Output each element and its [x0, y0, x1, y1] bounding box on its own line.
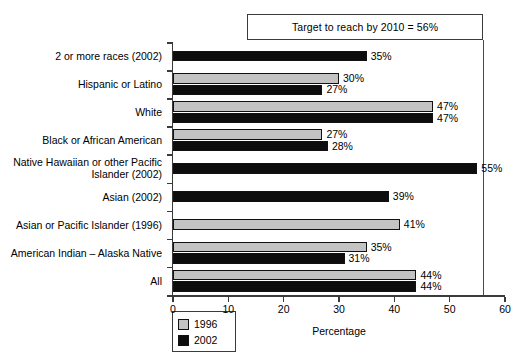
x-axis-tick	[283, 297, 285, 302]
chart-legend: 1996 2002	[172, 311, 236, 352]
category-label-text: 2 or more races (2002)	[55, 50, 168, 62]
y-axis-tick	[167, 183, 172, 185]
category-label-text: Hispanic or Latino	[78, 78, 168, 90]
y-axis-tick	[167, 70, 172, 72]
bar-2002	[173, 253, 345, 264]
y-axis-tick	[167, 239, 172, 241]
category-label-text: All	[150, 275, 168, 287]
x-axis-tick-label: 30	[333, 303, 345, 315]
legend-label-2002: 2002	[194, 334, 217, 346]
x-axis-tick	[449, 297, 451, 302]
bar-value-label: 47%	[437, 100, 458, 112]
category-label-text: American Indian – Alaska Native	[11, 247, 168, 259]
category-label: Asian or Pacific Islander (1996)	[0, 211, 168, 239]
x-axis-tick	[394, 297, 396, 302]
category-label: Asian (2002)	[0, 183, 168, 211]
bar-1996	[173, 242, 367, 253]
y-axis-tick	[167, 154, 172, 156]
x-axis-tick-label: 50	[444, 303, 456, 315]
bar-1996	[173, 101, 433, 112]
bar-value-label: 55%	[481, 162, 502, 174]
legend-swatch-1996	[178, 319, 189, 330]
x-axis-tick	[172, 297, 174, 302]
y-axis-tick	[167, 42, 172, 44]
bar-value-label: 39%	[393, 190, 414, 202]
category-label: All	[0, 267, 168, 295]
legend-label-1996: 1996	[194, 318, 217, 330]
category-label-text: Asian or Pacific Islander (1996)	[16, 219, 168, 231]
category-label: Native Hawaiian or other Pacific Islande…	[0, 154, 168, 182]
x-axis-tick	[338, 297, 340, 302]
bar-2002	[173, 85, 322, 96]
x-axis-tick-label: 40	[388, 303, 400, 315]
x-axis-title: Percentage	[312, 325, 366, 337]
target-callout-text: Target to reach by 2010 = 56%	[292, 21, 438, 33]
y-axis-tick	[167, 267, 172, 269]
y-axis-tick	[167, 211, 172, 213]
bar-2002	[173, 163, 477, 174]
category-label: 2 or more races (2002)	[0, 42, 168, 70]
bar-value-label: 27%	[326, 128, 347, 140]
bar-value-label: 44%	[420, 280, 441, 292]
category-label: Hispanic or Latino	[0, 70, 168, 98]
y-axis-tick	[167, 295, 172, 297]
category-label-text: Black or African American	[42, 134, 168, 146]
bar-2002	[173, 51, 367, 62]
bar-1996	[173, 270, 416, 281]
bar-value-label: 35%	[371, 241, 392, 253]
category-label-text: Asian (2002)	[102, 191, 168, 203]
bar-2002	[173, 191, 389, 202]
bar-value-label: 31%	[349, 252, 370, 264]
bar-value-label: 28%	[332, 140, 353, 152]
bar-2002	[173, 141, 328, 152]
x-axis-tick-label: 20	[278, 303, 290, 315]
bar-value-label: 44%	[420, 269, 441, 281]
category-label: White	[0, 98, 168, 126]
x-axis-tick	[228, 297, 230, 302]
y-axis-tick	[167, 126, 172, 128]
category-label-text: Native Hawaiian or other Pacific Islande…	[13, 156, 168, 180]
bar-value-label: 41%	[404, 218, 425, 230]
bar-2002	[173, 113, 433, 124]
x-axis-tick-label: 0	[170, 303, 176, 315]
bar-chart: Target to reach by 2010 = 56% 0102030405…	[0, 0, 527, 359]
legend-item-1996: 1996	[178, 316, 235, 332]
bar-value-label: 30%	[343, 72, 364, 84]
target-callout-box: Target to reach by 2010 = 56%	[247, 14, 483, 40]
legend-swatch-2002	[178, 335, 189, 346]
category-label: American Indian – Alaska Native	[0, 239, 168, 267]
x-axis-tick-label: 60	[499, 303, 511, 315]
bar-1996	[173, 129, 322, 140]
bar-value-label: 47%	[437, 112, 458, 124]
x-axis-tick	[504, 297, 506, 302]
category-label-text: White	[135, 106, 168, 118]
bar-value-label: 35%	[371, 50, 392, 62]
bar-1996	[173, 219, 400, 230]
legend-item-2002: 2002	[178, 332, 235, 348]
bar-value-label: 27%	[326, 83, 347, 95]
y-axis	[172, 42, 174, 295]
category-label: Black or African American	[0, 126, 168, 154]
bar-2002	[173, 281, 416, 292]
bar-1996	[173, 73, 339, 84]
y-axis-tick	[167, 98, 172, 100]
x-axis-tick-label: 10	[222, 303, 234, 315]
